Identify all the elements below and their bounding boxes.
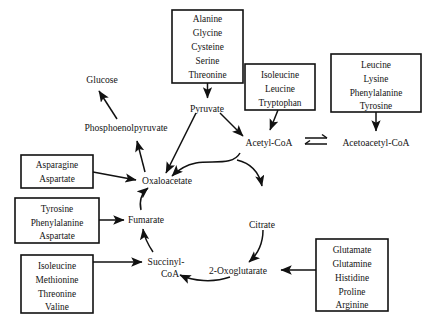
aa-label: Leucine bbox=[265, 84, 295, 94]
aa-label: Tyrosine bbox=[41, 204, 73, 214]
aa-label: Alanine bbox=[193, 14, 222, 24]
aa-label: Glycine bbox=[193, 28, 222, 38]
metabolite-citrate: Citrate bbox=[249, 219, 275, 230]
arrow-cycle-to-citrate bbox=[237, 160, 262, 186]
arrow-succinyl-coa-to-fumarate bbox=[143, 229, 153, 252]
aa-label: Phenylalanine bbox=[31, 218, 84, 228]
metabolite-glucose: Glucose bbox=[86, 74, 117, 85]
aa-box-to-succinyl-coa: Isoleucine Methionine Threonine Valine bbox=[21, 255, 93, 313]
metabolite-phosphoenolpyruvate: Phosphoenolpyruvate bbox=[84, 122, 167, 133]
aa-label: Threonine bbox=[38, 289, 76, 299]
metabolite-oxaloacetate: Oxaloacetate bbox=[142, 175, 192, 186]
metabolite-2-oxoglutarate: 2-Oxoglutarate bbox=[209, 265, 267, 276]
arrow-oxaloacetate-to-pep bbox=[137, 141, 145, 172]
aa-label: Valine bbox=[45, 302, 69, 312]
aa-box-to-acetyl-coa: Isoleucine Leucine Tryptophan bbox=[245, 64, 315, 110]
metabolic-pathway-svg: Alanine Glycine Cysteine Serine Threonin… bbox=[0, 0, 434, 322]
aa-label: Asparagine bbox=[36, 160, 78, 170]
aa-label: Proline bbox=[339, 287, 366, 297]
metabolite-acetoacetyl-coa: Acetoacetyl-CoA bbox=[342, 137, 409, 148]
aa-label: Histidine bbox=[335, 273, 369, 283]
aa-box-to-oxaloacetate: Asparagine Aspartate bbox=[21, 155, 93, 188]
aa-label: Threonine bbox=[188, 70, 226, 80]
metabolite-acetyl-coa: Acetyl-CoA bbox=[246, 137, 293, 148]
aa-label: Serine bbox=[196, 56, 220, 66]
metabolite-succinyl-coa: Succinyl- bbox=[148, 256, 185, 267]
metabolite-succinyl-coa-line2: CoA bbox=[161, 268, 179, 279]
aa-box-to-2-oxoglutarate: Glutamate Glutamine Histidine Proline Ar… bbox=[316, 239, 388, 311]
aa-label: Glutamate bbox=[333, 245, 372, 255]
metabolite-fumarate: Fumarate bbox=[128, 214, 164, 225]
aa-label: Isoleucine bbox=[38, 261, 76, 271]
aa-label: Cysteine bbox=[191, 42, 224, 52]
aa-box-to-fumarate: Tyrosine Phenylalanine Aspartate bbox=[15, 198, 99, 243]
aa-label: Methionine bbox=[36, 275, 79, 285]
aa-box-to-pyruvate: Alanine Glycine Cysteine Serine Threonin… bbox=[172, 10, 243, 83]
arrow-citrate-to-2-oxoglutarate bbox=[249, 230, 263, 262]
aa-label: Tyrosine bbox=[360, 101, 392, 111]
aa-label: Aspartate bbox=[39, 231, 75, 241]
aa-label: Arginine bbox=[336, 300, 369, 310]
arrow-pyruvate-to-acetyl-coa bbox=[220, 113, 243, 136]
aa-box-to-acetoacetyl-coa: Leucine Lysine Phenylalanine Tyrosine bbox=[331, 54, 421, 112]
aa-label: Phenylalanine bbox=[350, 88, 403, 98]
arrow-aa-to-oxaloacetate bbox=[93, 172, 136, 180]
aa-label: Lysine bbox=[364, 74, 389, 84]
aa-label: Leucine bbox=[361, 60, 391, 70]
arrow-acetyl-coa-to-oxaloacetate bbox=[172, 153, 240, 176]
metabolite-pyruvate: Pyruvate bbox=[190, 103, 224, 114]
arrow-fumarate-to-oxaloacetate bbox=[140, 188, 148, 210]
aa-label: Aspartate bbox=[39, 174, 75, 184]
equilibrium-arrow bbox=[305, 135, 327, 145]
arrow-aa-to-acetyl-coa bbox=[270, 110, 278, 130]
arrow-pep-to-glucose bbox=[99, 91, 117, 119]
diagram-canvas: Alanine Glycine Cysteine Serine Threonin… bbox=[0, 0, 434, 322]
aa-label: Isoleucine bbox=[261, 70, 299, 80]
aa-label: Tryptophan bbox=[258, 98, 301, 108]
aa-label: Glutamine bbox=[332, 259, 371, 269]
